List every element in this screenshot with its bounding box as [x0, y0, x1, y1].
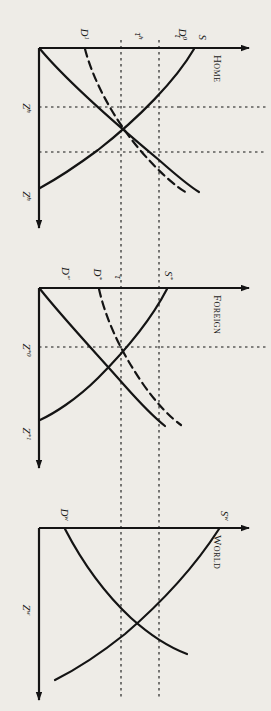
home-tau-high-sup: h	[137, 36, 145, 40]
foreign-axis-label-horizontal-sup: *0	[25, 350, 33, 358]
foreign-supply-label-sup: *	[167, 277, 175, 281]
foreign-demand-shifted-label-sup: *′	[64, 275, 72, 281]
home-supply-label-base: S	[197, 35, 209, 41]
foreign-demand-shifted-label-base: D	[60, 266, 72, 275]
home-demand-shifted-label-base: D	[79, 28, 91, 37]
foreign-axis-label-vertical-sup: *1	[25, 434, 33, 441]
foreign-demand-initial-label-sup: *	[96, 277, 104, 281]
home-axis-label-vertical-sup: h	[25, 197, 33, 201]
home-supply-label: S	[197, 35, 209, 41]
home-demand-shifted-label-sup: 1	[83, 37, 91, 41]
world-axis-label-vertical-sup: w	[25, 611, 33, 616]
panel-title-home: Home	[212, 55, 224, 82]
foreign-tau-base: τ	[113, 275, 124, 279]
home-tau-low-base: τ	[173, 34, 184, 38]
figure-stage: Home S D0 D1 Zh Zh τ τh Foreign S* D* D*…	[0, 0, 271, 711]
economics-supply-demand-figure: Home S D0 D1 Zh Zh τ τh Foreign S* D* D*…	[0, 0, 271, 711]
world-demand-label-sup: w	[63, 516, 71, 521]
figure-page: Home S D0 D1 Zh Zh τ τh Foreign S* D* D*…	[0, 0, 271, 711]
panel-title-world: World	[212, 535, 224, 569]
world-supply-label-sup: w	[223, 516, 231, 521]
home-axis-label-horizontal-sup: h	[25, 109, 33, 113]
world-demand-label-base: D	[59, 507, 71, 516]
foreign-tau-label: τ	[113, 275, 124, 279]
home-tau-low-label: τ	[173, 34, 184, 38]
foreign-demand-initial-label-base: D	[92, 268, 104, 277]
panel-title-foreign: Foreign	[212, 295, 224, 334]
